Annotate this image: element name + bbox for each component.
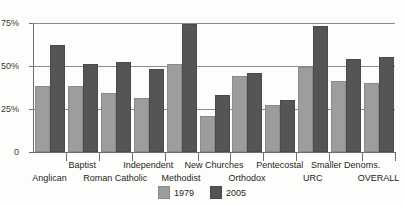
bar-group bbox=[231, 23, 264, 152]
bar bbox=[346, 59, 361, 152]
y-tick-mark bbox=[29, 152, 33, 153]
bar bbox=[265, 105, 280, 152]
bar bbox=[331, 81, 346, 152]
bar bbox=[280, 100, 295, 152]
bar bbox=[182, 24, 197, 152]
bar-group bbox=[100, 23, 133, 152]
category-label-overall: OVERALL bbox=[358, 173, 400, 183]
x-axis-line bbox=[33, 152, 395, 153]
bar bbox=[134, 98, 149, 152]
bar bbox=[116, 62, 131, 152]
category-tick bbox=[66, 152, 67, 161]
category-tick bbox=[395, 152, 396, 161]
y-tick-mark bbox=[29, 23, 33, 24]
bar bbox=[364, 83, 379, 152]
bar bbox=[379, 57, 394, 152]
bar-group bbox=[67, 23, 100, 152]
y-tick-mark bbox=[29, 109, 33, 110]
bar bbox=[83, 64, 98, 152]
bar bbox=[35, 86, 50, 152]
bar-group bbox=[297, 23, 330, 152]
bar-group bbox=[34, 23, 67, 152]
bar bbox=[200, 116, 215, 152]
y-tick-label: 75% bbox=[0, 18, 19, 28]
category-label-roman-catholic: Roman Catholic bbox=[83, 173, 147, 183]
category-label-independent: Independent bbox=[123, 160, 173, 170]
category-label-baptist: Baptist bbox=[69, 160, 97, 170]
bar bbox=[247, 73, 262, 152]
bar bbox=[149, 69, 164, 152]
y-tick-label: 50% bbox=[0, 61, 19, 71]
legend-label: 1979 bbox=[174, 188, 194, 198]
y-tick-mark bbox=[29, 66, 33, 67]
bar-group bbox=[363, 23, 396, 152]
bar bbox=[232, 76, 247, 152]
bar-chart: 75%50%25%0 AnglicanBaptistRoman Catholic… bbox=[0, 0, 404, 206]
bar-group bbox=[166, 23, 199, 152]
chart-legend: 19792005 bbox=[0, 186, 404, 199]
bar bbox=[298, 67, 313, 152]
y-tick-label: 25% bbox=[0, 104, 19, 114]
bar-group bbox=[264, 23, 297, 152]
category-tick bbox=[99, 152, 100, 161]
bar bbox=[50, 45, 65, 152]
bar bbox=[101, 93, 116, 152]
y-tick-label: 0 bbox=[0, 147, 19, 157]
bar-group bbox=[133, 23, 166, 152]
category-label-smaller-denoms: Smaller Denoms. bbox=[311, 160, 380, 170]
bar-group bbox=[330, 23, 363, 152]
bar-group bbox=[199, 23, 232, 152]
category-label-urc: URC bbox=[303, 173, 323, 183]
category-label-pentecostal: Pentecostal bbox=[256, 160, 303, 170]
bar bbox=[313, 26, 328, 152]
legend-item-1979[interactable]: 1979 bbox=[158, 186, 194, 199]
legend-item-2005[interactable]: 2005 bbox=[210, 186, 246, 199]
legend-label: 2005 bbox=[226, 188, 246, 198]
category-label-new-churches: New Churches bbox=[184, 160, 243, 170]
category-label-methodist: Methodist bbox=[162, 173, 201, 183]
bar bbox=[215, 95, 230, 152]
legend-swatch-icon bbox=[210, 186, 222, 199]
legend-swatch-icon bbox=[158, 186, 170, 199]
bar bbox=[167, 64, 182, 152]
category-label-anglican: Anglican bbox=[32, 173, 67, 183]
category-label-orthodox: Orthodox bbox=[228, 173, 265, 183]
bar bbox=[68, 86, 83, 152]
plot-area: 75%50%25%0 bbox=[33, 23, 395, 152]
